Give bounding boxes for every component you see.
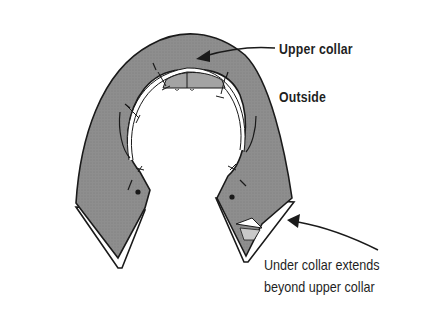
upper-collar-label: Upper collar <box>279 40 353 57</box>
under-collar-label: Under collar extends beyond upper collar <box>264 254 380 298</box>
outside-label: Outside <box>279 88 326 105</box>
left-button-dot <box>135 189 140 194</box>
upper-collar <box>76 34 292 258</box>
under-collar-label-line2: beyond upper collar <box>264 276 380 298</box>
under-collar-label-line1: Under collar extends <box>264 254 380 276</box>
stitch-marks <box>175 89 194 91</box>
under-collar-arrow <box>287 214 378 250</box>
right-button-dot <box>229 194 234 199</box>
